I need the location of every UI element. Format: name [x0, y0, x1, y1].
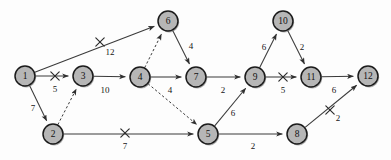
edge-cross-mark-1-6	[96, 38, 104, 46]
node-3[interactable]: 3	[73, 66, 94, 87]
node-label-9: 9	[253, 72, 258, 82]
edge-6-to-7	[173, 30, 190, 64]
node-label-1: 1	[23, 71, 28, 81]
edge-weight-4-7: 4	[168, 85, 173, 95]
edge-4-to-5	[148, 84, 197, 125]
node-label-8: 8	[295, 129, 300, 139]
edge-weight-9-10: 6	[262, 42, 267, 52]
node-9[interactable]: 9	[245, 67, 266, 88]
node-label-3: 3	[81, 71, 86, 81]
edge-weight-1-6: 12	[106, 47, 115, 57]
node-6[interactable]: 6	[158, 11, 179, 32]
node-label-5: 5	[206, 129, 211, 139]
edge-weight-1-3: 5	[53, 84, 58, 94]
edge-weight-9-11: 5	[281, 85, 286, 95]
node-4[interactable]: 4	[130, 67, 151, 88]
edge-weight-7-9: 2	[221, 85, 226, 95]
node-label-11: 11	[306, 72, 315, 82]
edge-weight-6-7: 4	[189, 41, 194, 51]
node-label-10: 10	[278, 16, 288, 26]
edge-weight-3-4: 10	[101, 85, 111, 95]
node-label-4: 4	[138, 72, 143, 82]
edge-weight-8-12: 2	[336, 113, 341, 123]
edge-2-to-3	[58, 89, 76, 125]
graph-canvas: 12577104426265262 123456789101112	[0, 0, 391, 160]
edge-4-to-6	[145, 34, 162, 68]
node-7[interactable]: 7	[186, 67, 207, 88]
edge-weight-5-9: 6	[231, 108, 236, 118]
network-diagram: 12577104426265262 123456789101112	[0, 0, 391, 160]
edge-weight-10-11: 2	[300, 42, 305, 52]
edge-11-to-12	[321, 76, 353, 77]
edge-cross-mark-2-5	[121, 129, 129, 137]
edge-weight-1-2: 7	[31, 103, 36, 113]
node-label-7: 7	[194, 72, 199, 82]
node-5[interactable]: 5	[198, 124, 219, 145]
edge-3-to-4	[93, 76, 125, 77]
edge-weight-5-8: 2	[251, 141, 256, 151]
node-11[interactable]: 11	[301, 67, 322, 88]
nodes-layer: 123456789101112	[15, 11, 379, 145]
node-label-6: 6	[166, 16, 171, 26]
node-label-2: 2	[51, 129, 56, 139]
node-12[interactable]: 12	[358, 66, 379, 87]
edge-1-to-6	[35, 26, 155, 72]
edge-weight-11-12: 6	[332, 85, 337, 95]
edge-weight-2-5: 7	[123, 141, 128, 151]
node-1[interactable]: 1	[15, 66, 36, 87]
node-2[interactable]: 2	[43, 124, 64, 145]
node-label-12: 12	[363, 71, 373, 81]
node-8[interactable]: 8	[287, 124, 308, 145]
node-10[interactable]: 10	[273, 11, 294, 32]
edge-cross-marks-layer	[51, 38, 334, 137]
